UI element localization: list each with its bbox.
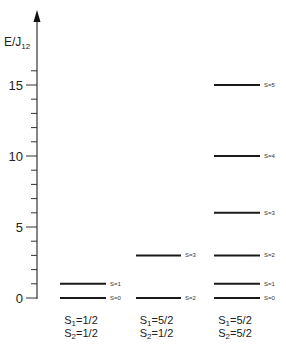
spin-combination-label: S2=1/2 xyxy=(140,327,174,341)
spin-state-label: S=1 xyxy=(110,281,122,287)
energy-level-diagram: 051015 E/J12 S=0S=1S=2S=3S=0S=1S=2S=3S=4… xyxy=(0,0,286,347)
spin-combination-label: S1=1/2 xyxy=(64,314,98,328)
y-axis: 051015 xyxy=(9,10,41,306)
y-tick-label: 10 xyxy=(9,149,23,164)
energy-levels: S=0S=1S=2S=3S=0S=1S=2S=3S=4S=5 xyxy=(60,82,276,301)
spin-combination-label: S1=5/2 xyxy=(140,314,174,328)
level-group: S=0S=1 xyxy=(60,281,122,301)
spin-combination-label: S2=5/2 xyxy=(218,327,252,341)
spin-state-label: S=2 xyxy=(264,252,276,258)
y-axis-title-main: E/J xyxy=(4,35,21,49)
spin-combination-label: S2=1/2 xyxy=(64,327,98,341)
axis-arrow-icon xyxy=(34,10,41,22)
level-group: S=2S=3 xyxy=(136,252,197,301)
spin-state-label: S=1 xyxy=(264,281,276,287)
svg-text:E/J12: E/J12 xyxy=(4,35,31,51)
y-tick-label: 0 xyxy=(16,291,23,306)
spin-state-label: S=0 xyxy=(264,295,276,301)
y-axis-title: E/J12 xyxy=(4,35,31,51)
y-tick-label: 15 xyxy=(9,78,23,93)
spin-state-label: S=3 xyxy=(264,210,276,216)
y-axis-title-sub: 12 xyxy=(21,42,30,51)
spin-state-label: S=5 xyxy=(264,82,276,88)
spin-state-label: S=2 xyxy=(185,295,197,301)
group-labels: S1=1/2S2=1/2S1=5/2S2=1/2S1=5/2S2=5/2 xyxy=(64,314,252,341)
spin-state-label: S=0 xyxy=(110,295,122,301)
spin-state-label: S=4 xyxy=(264,153,276,159)
spin-combination-label: S1=5/2 xyxy=(218,314,252,328)
level-group: S=0S=1S=2S=3S=4S=5 xyxy=(214,82,276,301)
spin-state-label: S=3 xyxy=(185,252,197,258)
y-tick-label: 5 xyxy=(16,220,23,235)
